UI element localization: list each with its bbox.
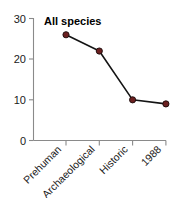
data-point-1988 <box>163 101 169 107</box>
chart-title: All species <box>44 15 101 27</box>
y-tick-label-30: 30 <box>14 13 26 25</box>
y-tick-label-0: 0 <box>20 135 26 147</box>
data-point-prehuman <box>63 32 69 38</box>
data-point-historic <box>130 97 136 103</box>
line-chart-plot: 30 20 10 0 Prehuman Archaeological Histo… <box>0 0 174 198</box>
plot-background <box>0 0 174 198</box>
data-point-archaeological <box>96 48 102 54</box>
y-tick-label-20: 20 <box>14 53 26 65</box>
chart-figure: 30 20 10 0 Prehuman Archaeological Histo… <box>0 0 174 198</box>
y-tick-label-10: 10 <box>14 94 26 106</box>
